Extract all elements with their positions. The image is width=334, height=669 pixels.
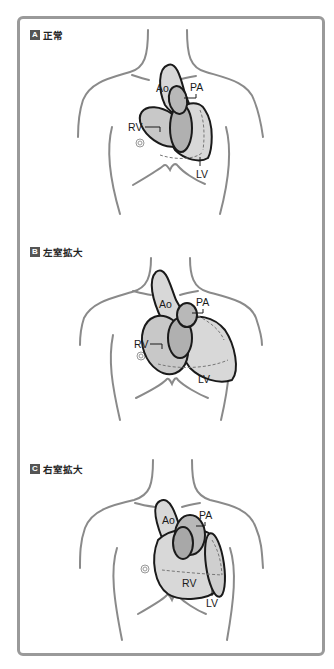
panel-c-diagram: Ao PA RV LV xyxy=(80,460,263,640)
label-ao: Ao xyxy=(156,82,169,94)
label-lv: LV xyxy=(196,168,208,180)
panel-a-diagram: Ao PA RV LV xyxy=(78,30,263,214)
label-ao: Ao xyxy=(162,514,175,526)
label-lv: LV xyxy=(198,373,210,385)
label-pa: PA xyxy=(190,81,203,93)
heart-diagrams: Ao PA RV LV Ao PA xyxy=(0,0,334,669)
label-ao: Ao xyxy=(159,298,172,310)
label-rv: RV xyxy=(134,338,148,350)
label-pa: PA xyxy=(196,296,209,308)
panel-b-diagram: Ao PA RV LV xyxy=(80,258,262,420)
label-rv: RV xyxy=(182,577,196,589)
heart-lv-enlarged xyxy=(134,271,236,382)
label-pa: PA xyxy=(199,509,212,521)
label-rv: RV xyxy=(128,121,142,133)
label-lv: LV xyxy=(206,597,218,609)
